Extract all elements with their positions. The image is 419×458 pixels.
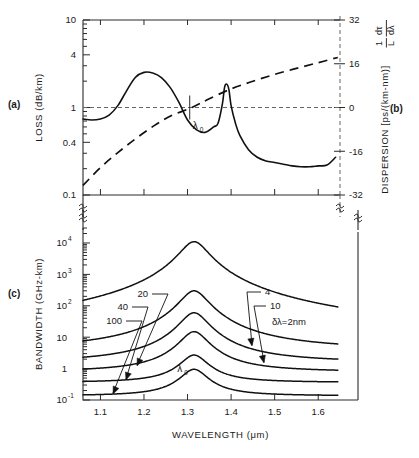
curve-label-40: 40 [117, 301, 128, 312]
loss-axis-title: LOSS (dB/km) [33, 73, 44, 141]
panel-c-xtick-label: 1.5 [268, 406, 281, 417]
leader-arrowhead[interactable] [259, 355, 265, 363]
panel-c-ytick-mantissa: 10 [56, 332, 67, 343]
bandwidth-curve[interactable] [83, 242, 338, 307]
panel-c-ytick-label[interactable]: 10 [56, 332, 67, 343]
axis-break-c-left[interactable] [79, 214, 87, 218]
leader-arrowhead[interactable] [113, 386, 119, 394]
curve-label-4: 4 [265, 286, 270, 297]
axis-break-right[interactable] [336, 204, 344, 208]
panel-a-ytick-label: 0.4 [63, 137, 76, 148]
panel-c-ytick-mantissa: 10 [56, 237, 67, 248]
panel-c-ytick-exponent: -1 [68, 392, 74, 399]
panel-b-label: (b) [390, 103, 403, 114]
fraction-denominator-prefix: L [386, 41, 396, 46]
wavelength-axis-title: WAVELENGTH (μm) [172, 429, 269, 440]
panel-c-axes[interactable] [83, 228, 358, 400]
fraction-numerator: dτ [374, 26, 384, 35]
leader-line[interactable] [126, 307, 148, 379]
optical-fiber-figure: 10410.40.132160-16-32λ0LOSS (dB/km)DISPE… [0, 0, 419, 458]
axis-break-right[interactable] [336, 208, 344, 212]
panel-c-ytick-exponent: 3 [68, 267, 72, 274]
panel-c-xtick-label: 1.4 [224, 406, 237, 417]
panel-c-ytick-exponent: 4 [68, 235, 72, 242]
dispersion-fraction[interactable]: 1Ldτdλ [374, 20, 396, 48]
curve-label-20: 20 [137, 288, 148, 299]
axis-break-c-left[interactable] [79, 218, 87, 222]
leader-line[interactable] [247, 292, 261, 345]
panel-c-ytick-mantissa: 1 [62, 363, 67, 374]
panel-c-xtick-label: 1.2 [137, 406, 150, 417]
panel-b-ytick-label: -32 [349, 189, 363, 200]
panel-a-label: (a) [8, 99, 20, 110]
panel-c-ytick-mantissa: 10 [56, 394, 67, 405]
delta-lambda-label: δλ=2nm [272, 316, 306, 327]
panel-c-ytick-label[interactable]: 1 [62, 363, 67, 374]
panel-b-ytick-label: -16 [349, 146, 363, 157]
panel-c[interactable]: 10410310210110-11.11.21.31.41.51.6λ02040… [8, 210, 362, 440]
bandwidth-axis-title: BANDWIDTH (GHz-km) [33, 258, 44, 370]
axis-break-left[interactable] [79, 204, 87, 208]
panel-a-ytick-label: 4 [71, 49, 76, 60]
panel-c-ytick-label[interactable]: 103 [56, 267, 72, 280]
leader-arrowhead[interactable] [248, 338, 254, 346]
panel-c-xtick-label: 1.6 [312, 406, 325, 417]
dispersion-axis-title: DISPERSION [ps/(km-nm)] [379, 65, 390, 193]
panel-c-ytick-mantissa: 10 [56, 300, 67, 311]
panel-c-lambda-zero-label: λ [177, 363, 182, 374]
axis-break-c-right[interactable] [354, 214, 362, 218]
curve-label-100: 100 [106, 315, 122, 326]
panel-c-ytick-exponent: 2 [68, 298, 72, 305]
panel-c-xtick-label: 1.3 [181, 406, 194, 417]
panel-c-xtick-label: 1.1 [94, 406, 107, 417]
loss-curve[interactable] [83, 72, 336, 167]
panel-a-b[interactable]: 10410.40.132160-16-32λ0LOSS (dB/km)DISPE… [8, 14, 403, 217]
axis-break-c-right[interactable] [354, 218, 362, 222]
panel-c-ytick-label[interactable]: 102 [56, 298, 72, 311]
curve-label-10: 10 [270, 300, 281, 311]
panel-c-lambda-zero-subscript: 0 [184, 369, 188, 376]
panel-a-ytick-label: 0.1 [63, 189, 76, 200]
panel-b-ytick-label: 0 [349, 102, 354, 113]
panel-c-label: (c) [8, 288, 20, 299]
figure-container: 10410.40.132160-16-32λ0LOSS (dB/km)DISPE… [0, 0, 419, 458]
panel-b-ytick-label: 32 [349, 14, 360, 25]
fraction-denominator: dλ [386, 25, 396, 35]
bandwidth-curve[interactable] [83, 332, 338, 371]
panel-a-ytick-label: 1 [71, 102, 76, 113]
panel-c-ytick-label[interactable]: 104 [56, 235, 72, 248]
panel-c-ytick-mantissa: 10 [56, 269, 67, 280]
panel-a-ytick-label: 10 [65, 14, 76, 25]
panel-c-ytick-label[interactable]: 10-1 [56, 392, 74, 405]
fraction-numerator-prefix: 1 [374, 41, 384, 46]
panel-b-ytick-label: 16 [349, 58, 360, 69]
